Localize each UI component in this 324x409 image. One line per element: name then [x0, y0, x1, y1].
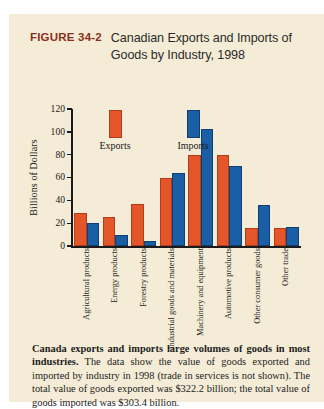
figure-header: FIGURE 34-2 Canadian Exports and Imports…	[30, 30, 310, 63]
chart-legend: Exports Imports	[87, 110, 221, 151]
figure-number-label: FIGURE 34-2	[30, 30, 102, 43]
x-axis-labels: Agricultural productsEnergy productsFore…	[73, 248, 301, 332]
legend-item-exports: Exports	[87, 110, 143, 151]
bar-exports	[74, 213, 87, 246]
legend-swatch-imports-icon	[187, 110, 200, 138]
y-tick-80	[67, 154, 72, 155]
bar-imports	[258, 205, 271, 246]
y-tick-40	[67, 200, 72, 201]
y-tick-label-40: 40	[41, 195, 65, 205]
x-axis-label: Other consumer goods	[244, 248, 273, 332]
x-axis-label: Forestry products	[130, 248, 159, 332]
legend-label-imports: Imports	[165, 140, 221, 151]
bar-imports	[115, 235, 128, 246]
bar-exports	[103, 217, 116, 246]
x-axis-label: Other trade	[272, 248, 301, 332]
bar-group	[244, 109, 273, 246]
figure-title: Canadian Exports and Imports of Goods by…	[111, 30, 310, 63]
y-tick-label-60: 60	[41, 172, 65, 182]
legend-item-imports: Imports	[165, 110, 221, 151]
y-tick-label-80: 80	[41, 150, 65, 160]
x-axis-label: Automotive products	[215, 248, 244, 332]
y-tick-0	[67, 245, 72, 246]
figure-panel: FIGURE 34-2 Canadian Exports and Imports…	[9, 14, 324, 402]
y-tick-label-100: 100	[41, 127, 65, 137]
y-tick-60	[67, 177, 72, 178]
y-tick-120	[67, 108, 72, 109]
bar-group	[272, 109, 301, 246]
x-axis-label: Industrial goods and materials	[158, 248, 187, 332]
bar-exports	[131, 204, 144, 246]
y-tick-label-0: 0	[41, 241, 65, 251]
bar-exports	[188, 155, 201, 246]
bar-exports	[217, 155, 230, 246]
y-axis-title: Billions of Dollars	[28, 123, 39, 233]
bar-exports	[245, 228, 258, 246]
bar-imports	[87, 223, 100, 246]
bar-exports	[160, 178, 173, 246]
figure-caption: Canada exports and imports large volumes…	[32, 342, 310, 409]
y-tick-label-20: 20	[41, 218, 65, 228]
bar-imports	[172, 173, 185, 246]
y-tick-100	[67, 131, 72, 132]
x-axis-label: Agricultural products	[73, 248, 102, 332]
bar-imports	[144, 241, 157, 246]
bar-chart: Billions of Dollars 0 20 40 60 80 100 12…	[9, 76, 324, 334]
legend-swatch-exports-icon	[109, 110, 122, 138]
bar-imports	[229, 166, 242, 246]
x-axis-label: Energy products	[101, 248, 130, 332]
legend-label-exports: Exports	[87, 140, 143, 151]
bar-imports	[286, 227, 299, 246]
bar-exports	[274, 228, 287, 246]
y-tick-20	[67, 223, 72, 224]
x-axis-label: Machinery and equipment	[187, 248, 216, 332]
y-tick-label-120: 120	[41, 104, 65, 114]
